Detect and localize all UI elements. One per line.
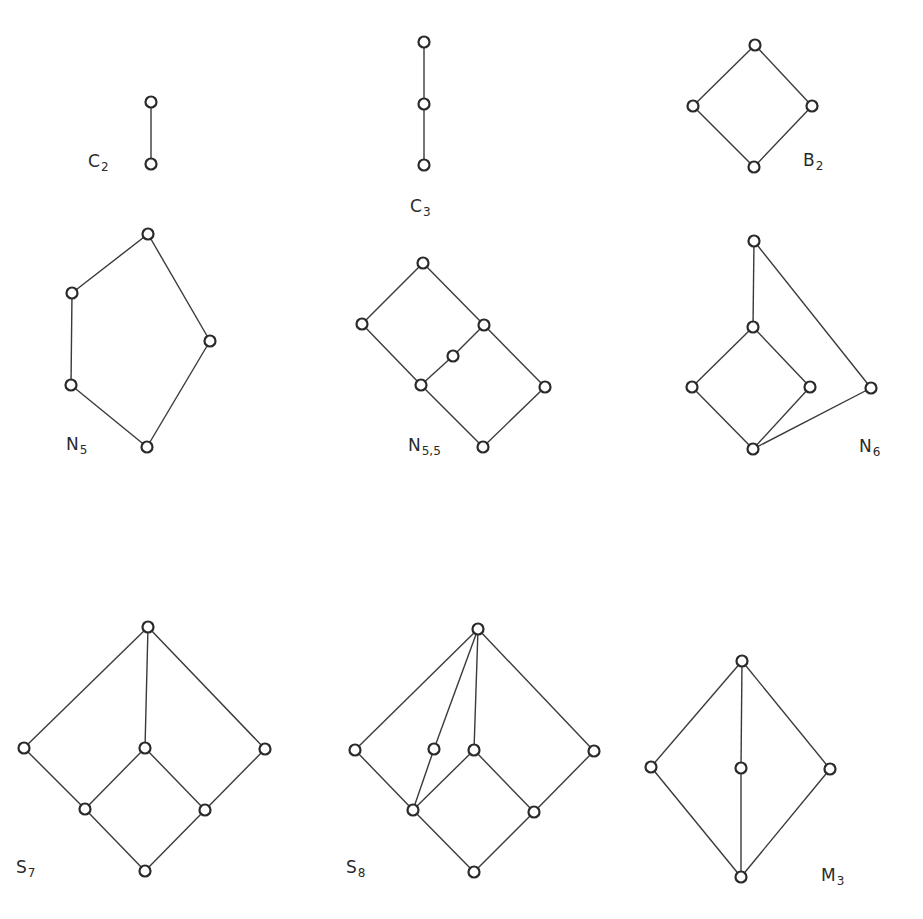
edge-center-left (362, 324, 421, 385)
node-lower-left (80, 804, 91, 815)
edge-bottom-left (651, 767, 741, 877)
label-letter: B (803, 150, 815, 170)
edge-bottom-lower-left (85, 809, 145, 871)
edge-mid-top (474, 629, 478, 750)
node-right (260, 744, 271, 755)
node-right (205, 336, 216, 347)
lattice-label: N5 (66, 434, 87, 457)
edge-lower-right-mid (474, 750, 534, 812)
label-letter: S (346, 857, 357, 877)
node-top (737, 656, 748, 667)
edge-right-top (742, 661, 830, 769)
label-letter: N (66, 434, 79, 454)
node-lower-right (200, 805, 211, 816)
edge-upper-left-top (72, 234, 148, 293)
edge-lower-left-left (355, 750, 413, 810)
edge-lower-left-upper-left (71, 293, 72, 385)
lattice-label: B2 (803, 150, 823, 173)
label-letter: S (16, 857, 27, 877)
edge-right-top (755, 45, 812, 106)
edge-bottom-lower-right (145, 810, 205, 871)
lattice-label: M3 (821, 865, 844, 888)
lattice-c2: C2 (88, 97, 157, 175)
node-left (19, 743, 30, 754)
edge-left-top (362, 263, 423, 324)
node-left (646, 762, 657, 773)
edge-bottom-right (741, 769, 830, 877)
edge-mid-top (145, 627, 148, 748)
node-mid (748, 322, 759, 333)
label-subscript: 3 (423, 205, 431, 219)
edge-lower-left-mid (413, 750, 474, 810)
edge-mid-top (753, 241, 754, 327)
label-subscript: 6 (873, 445, 881, 459)
lattice-b2: B2 (688, 40, 824, 174)
lattice-n55: N5,5 (357, 258, 551, 459)
edge-right-top (478, 629, 594, 751)
edge-upper-right-top (423, 263, 484, 325)
node-bottom (478, 442, 489, 453)
node-far-right (866, 383, 877, 394)
edge-left-top (651, 661, 742, 767)
node-bottom (142, 442, 153, 453)
lattice-label: C3 (410, 196, 431, 219)
edge-right-top (148, 234, 210, 341)
node-upper-left (67, 288, 78, 299)
node-left (350, 745, 361, 756)
node-top (418, 258, 429, 269)
node-right (807, 101, 818, 112)
label-letter: C (410, 196, 422, 216)
edge-far-right-upper-right (484, 325, 545, 387)
edge-bottom-right (147, 341, 210, 447)
edge-right-mid (753, 327, 810, 387)
lattice-s7: S7 (16, 622, 271, 881)
edge-bottom-far-right (753, 388, 871, 449)
lattice-label: N6 (859, 436, 880, 459)
node-top (473, 624, 484, 635)
edge-left-top (355, 629, 478, 750)
edge-bottom-right (753, 387, 810, 449)
label-letter: C (88, 151, 100, 171)
edge-lower-left-mid (85, 748, 145, 809)
lattice-s8: S8 (346, 624, 600, 881)
lattice-label: S8 (346, 857, 365, 880)
edge-lower-right-mid (145, 748, 205, 810)
edge-bottom-left (693, 106, 754, 167)
node-mid (448, 351, 459, 362)
node-lower-right (529, 807, 540, 818)
node-top (750, 40, 761, 51)
node-bottom (419, 160, 430, 171)
node-top (143, 622, 154, 633)
node-bottom (146, 159, 157, 170)
label-subscript: 5 (80, 443, 88, 457)
node-top (143, 229, 154, 240)
edge-lower-right-right (534, 751, 594, 812)
node-bottom (748, 444, 759, 455)
node-top (749, 236, 760, 247)
label-subscript: 2 (101, 160, 109, 174)
edge-bottom-far-right (483, 387, 545, 447)
edge-bottom-lower-right (474, 812, 534, 872)
edge-bottom-lower-left (71, 385, 147, 447)
lattice-c3: C3 (410, 37, 431, 220)
edge-inner-left-top (434, 629, 478, 749)
node-bottom (469, 867, 480, 878)
node-bottom (749, 162, 760, 173)
node-mid (469, 745, 480, 756)
label-letter: M (821, 865, 836, 885)
node-top (419, 37, 430, 48)
edge-bottom-lower-left (413, 810, 474, 872)
node-mid (140, 743, 151, 754)
edge-lower-left-inner-left (413, 749, 434, 810)
node-center (416, 380, 427, 391)
lattice-n5: N5 (66, 229, 216, 458)
edge-right-top (148, 627, 265, 749)
node-inner-left (429, 744, 440, 755)
edge-far-right-top (754, 241, 871, 388)
label-letter: N (859, 436, 872, 456)
node-left (687, 382, 698, 393)
node-far-right (540, 382, 551, 393)
node-mid (736, 763, 747, 774)
label-subscript: 5,5 (422, 444, 441, 458)
node-upper-right (479, 320, 490, 331)
